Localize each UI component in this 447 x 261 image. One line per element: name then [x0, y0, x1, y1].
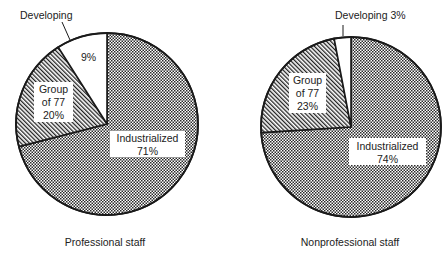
pie-charts-figure: Developing 9% Group of 77 20% Industrial…	[0, 0, 447, 261]
developing-leader-line-left	[62, 22, 70, 40]
developing-value-left: 9%	[81, 51, 96, 63]
industrialized-label-right: Industrialized	[357, 140, 419, 152]
group77-label-line2-left: of 77	[42, 96, 66, 108]
developing-callout-right: Developing 3%	[335, 9, 406, 21]
industrialized-value-right: 74%	[377, 153, 398, 165]
industrialized-value-left: 71%	[137, 145, 158, 157]
group77-value-right: 23%	[297, 100, 318, 112]
group77-value-left: 20%	[43, 109, 64, 121]
group77-label-line2-right: of 77	[296, 87, 320, 99]
group77-label-line1-left: Group	[39, 83, 68, 95]
caption-nonprofessional-staff: Nonprofessional staff	[301, 236, 400, 248]
group77-label-line1-right: Group	[293, 74, 322, 86]
industrialized-label-left: Industrialized	[117, 132, 179, 144]
pie-professional-staff	[16, 33, 198, 215]
pie-nonprofessional-staff	[261, 37, 441, 217]
caption-professional-staff: Professional staff	[65, 236, 145, 248]
developing-callout-left: Developing	[20, 9, 73, 21]
